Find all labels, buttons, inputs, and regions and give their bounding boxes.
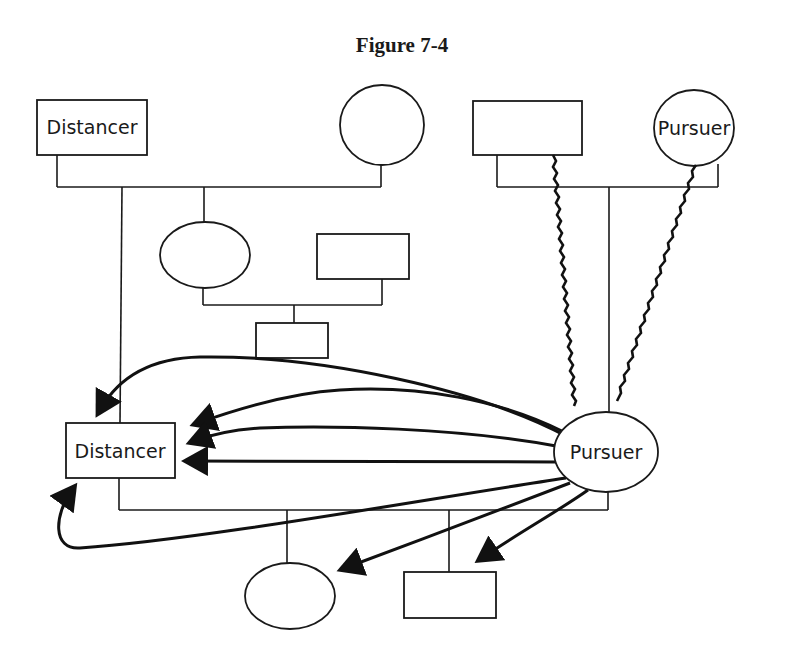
aunt-circle	[160, 222, 250, 288]
pursuit-arrow	[198, 389, 564, 432]
genogram-diagram: Figure 7-4 Distancer Pursuer	[0, 0, 804, 660]
grandfather-right-square	[473, 101, 582, 155]
node-label: Distancer	[47, 116, 138, 138]
grandfather-left-node: Distancer	[37, 100, 147, 155]
uncle-square	[317, 234, 409, 279]
cousin-square	[256, 323, 328, 358]
husband-node: Distancer	[66, 423, 175, 478]
right-grandparents: Pursuer	[473, 90, 734, 187]
aunt-family	[160, 222, 409, 358]
pursuit-arrow	[482, 490, 588, 558]
node-label: Pursuer	[570, 441, 643, 463]
node-label: Pursuer	[658, 117, 731, 139]
figure-title: Figure 7-4	[356, 33, 449, 57]
conflict-line-grandmother	[617, 165, 696, 401]
grandmother-right-node: Pursuer	[654, 90, 734, 166]
wife-node: Pursuer	[554, 412, 658, 492]
connector	[120, 187, 122, 423]
pursuit-arrow	[190, 461, 556, 462]
node-label: Distancer	[75, 440, 166, 462]
daughter-circle	[245, 563, 335, 629]
pursuit-arrow	[194, 427, 556, 446]
grandmother-left-circle	[340, 85, 424, 165]
son-square	[404, 572, 496, 618]
left-grandparents: Distancer	[37, 85, 424, 187]
conflict-line-grandfather	[553, 155, 576, 406]
